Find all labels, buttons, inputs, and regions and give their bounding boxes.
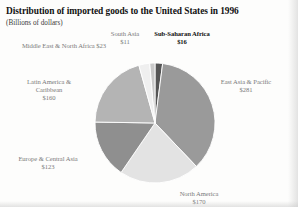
slice-label-east-asia-pacific-value: $281 (210, 86, 282, 94)
slice-label-latin-america-caribbean-name2: Caribbean (36, 86, 63, 93)
slice-label-north-america-name: North America (180, 190, 219, 197)
slice-label-sub-saharan-africa-name: Sub-Saharan Africa (154, 30, 209, 37)
slice-label-east-asia-pacific-name: East Asia & Pacific (221, 78, 272, 85)
slice-label-europe-central-asia: Europe & Central Asia $123 (6, 155, 90, 171)
slice-label-europe-central-asia-value: $123 (6, 163, 90, 171)
chart-page: Distribution of imported goods to the Un… (0, 0, 298, 207)
slice-label-north-america-value: $170 (168, 198, 230, 206)
slice-label-latin-america-caribbean-value: $160 (12, 94, 86, 102)
slice-label-sub-saharan-africa: Sub-Saharan Africa $16 (146, 30, 218, 46)
slice-label-north-america: North America $170 (168, 190, 230, 206)
slice-label-east-asia-pacific: East Asia & Pacific $281 (210, 78, 282, 94)
slice-label-middle-east-north-africa-name: Middle East & North Africa $23 (22, 42, 106, 49)
slice-label-latin-america-caribbean-name1: Latin America & (27, 78, 71, 85)
slice-label-latin-america-caribbean: Latin America & Caribbean $160 (12, 78, 86, 103)
slice-label-sub-saharan-africa-value: $16 (146, 38, 218, 46)
slice-label-south-asia-name: South Asia (111, 30, 139, 37)
slice-label-europe-central-asia-name: Europe & Central Asia (18, 155, 77, 162)
slice-label-middle-east-north-africa: Middle East & North Africa $23 (22, 42, 114, 50)
